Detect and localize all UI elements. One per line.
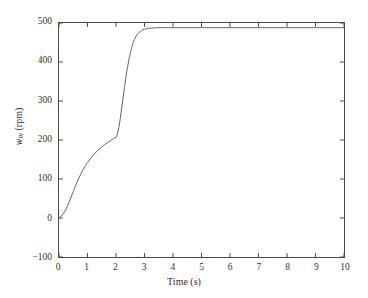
figure-canvas: −1000100200300400500 012345678910 Time (… — [0, 0, 368, 298]
x-tick-label: 1 — [84, 263, 89, 273]
x-tick-label: 2 — [113, 263, 118, 273]
x-axis-title: Time (s) — [0, 276, 368, 287]
y-tick-label: −100 — [0, 253, 52, 263]
plot-svg — [59, 23, 344, 257]
y-tick-label: 300 — [0, 96, 52, 106]
y-tick-label: 0 — [0, 214, 52, 224]
x-tick-label: 7 — [257, 263, 262, 273]
x-tick-label: 10 — [340, 263, 350, 273]
y-tick-label: 500 — [0, 17, 52, 27]
y-axis-subscript: m — [16, 133, 25, 138]
plot-area — [58, 22, 345, 258]
x-tick-label: 4 — [170, 263, 175, 273]
y-tick-label: 200 — [0, 135, 52, 145]
data-series-group — [59, 28, 344, 218]
x-tick-label: 0 — [56, 263, 61, 273]
x-tick-label: 6 — [228, 263, 233, 273]
x-tick-label: 8 — [285, 263, 290, 273]
y-axis-units: (rpm) — [13, 108, 24, 131]
data-line-0 — [59, 28, 344, 218]
y-axis-symbol: w — [13, 138, 24, 145]
y-tick-label: 400 — [0, 57, 52, 67]
x-tick-label: 9 — [314, 263, 319, 273]
y-axis-title: wm (rpm) — [13, 71, 26, 181]
y-axis-ticks — [59, 23, 344, 257]
x-axis-ticks — [59, 23, 344, 257]
x-tick-label: 5 — [199, 263, 204, 273]
y-tick-label: 100 — [0, 175, 52, 185]
x-tick-label: 3 — [142, 263, 147, 273]
